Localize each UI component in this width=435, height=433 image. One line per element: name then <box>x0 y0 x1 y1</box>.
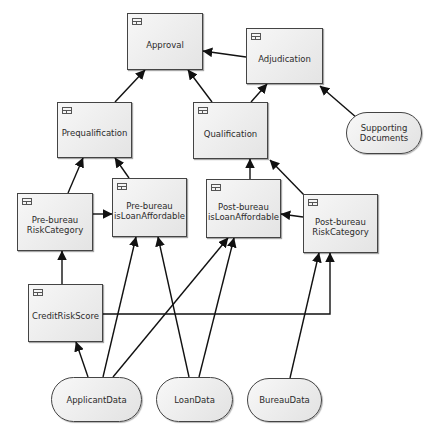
decision-table-icon <box>22 198 32 205</box>
node-qualification[interactable]: Qualification <box>193 102 268 159</box>
edge-supporting_documents-to-adjudication[interactable] <box>320 86 357 118</box>
node-creditriskscore[interactable]: CreditRiskScore <box>28 284 103 342</box>
decision-table-icon <box>33 289 43 296</box>
node-supporting_documents[interactable]: Supporting Documents <box>346 112 422 154</box>
decision-table-icon <box>117 183 127 190</box>
edge-loandata-to-postbureau_isloanaffordable[interactable] <box>199 238 234 377</box>
node-label: Prequalification <box>62 128 128 138</box>
node-prebureau_isloanaffordable[interactable]: Pre-bureau isLoanAffordable <box>112 178 187 237</box>
node-label: ApplicantData <box>66 395 126 405</box>
edge-applicantdata-to-creditriskscore[interactable] <box>76 342 88 377</box>
node-label: Adjudication <box>258 54 311 64</box>
node-loandata[interactable]: LoanData <box>156 377 233 422</box>
node-label: CreditRiskScore <box>32 311 99 321</box>
decision-table-icon <box>251 33 261 40</box>
edge-qualification-to-approval[interactable] <box>188 70 212 102</box>
node-adjudication[interactable]: Adjudication <box>246 28 323 84</box>
node-label: Pre-bureau RiskCategory <box>27 215 83 235</box>
node-label: Post-bureau isLoanAffordable <box>208 202 279 222</box>
edge-postbureau_riskcategory-to-postbureau_isloanaffordable[interactable] <box>281 214 303 217</box>
node-approval[interactable]: Approval <box>127 13 203 70</box>
decision-table-icon <box>211 184 221 191</box>
edge-bureaudata-to-postbureau_riskcategory[interactable] <box>290 253 319 378</box>
node-label: BureauData <box>259 395 310 405</box>
edge-adjudication-to-approval[interactable] <box>203 51 246 57</box>
edge-qualification-to-adjudication[interactable] <box>251 84 267 102</box>
edge-prebureau_riskcategory-to-prequalification[interactable] <box>68 158 83 193</box>
node-bureaudata[interactable]: BureauData <box>247 378 322 422</box>
decision-table-icon <box>308 199 318 206</box>
node-label: Post-bureau RiskCategory <box>312 217 368 237</box>
node-label: Approval <box>146 40 184 50</box>
decision-table-icon <box>198 107 208 114</box>
edge-prequalification-to-approval[interactable] <box>115 70 145 102</box>
node-postbureau_isloanaffordable[interactable]: Post-bureau isLoanAffordable <box>206 179 281 238</box>
decision-table-icon <box>132 18 142 25</box>
node-prequalification[interactable]: Prequalification <box>57 102 132 158</box>
node-label: LoanData <box>174 395 215 405</box>
decision-table-icon <box>62 107 72 114</box>
node-label: Pre-bureau isLoanAffordable <box>114 201 185 221</box>
node-label: Supporting Documents <box>360 123 408 143</box>
edge-loandata-to-prebureau_isloanaffordable[interactable] <box>158 237 189 377</box>
node-prebureau_riskcategory[interactable]: Pre-bureau RiskCategory <box>17 193 93 251</box>
node-label: Qualification <box>204 129 258 139</box>
node-postbureau_riskcategory[interactable]: Post-bureau RiskCategory <box>303 194 378 253</box>
edge-prebureau_isloanaffordable-to-prequalification[interactable] <box>115 158 129 178</box>
node-applicantdata[interactable]: ApplicantData <box>51 377 142 422</box>
